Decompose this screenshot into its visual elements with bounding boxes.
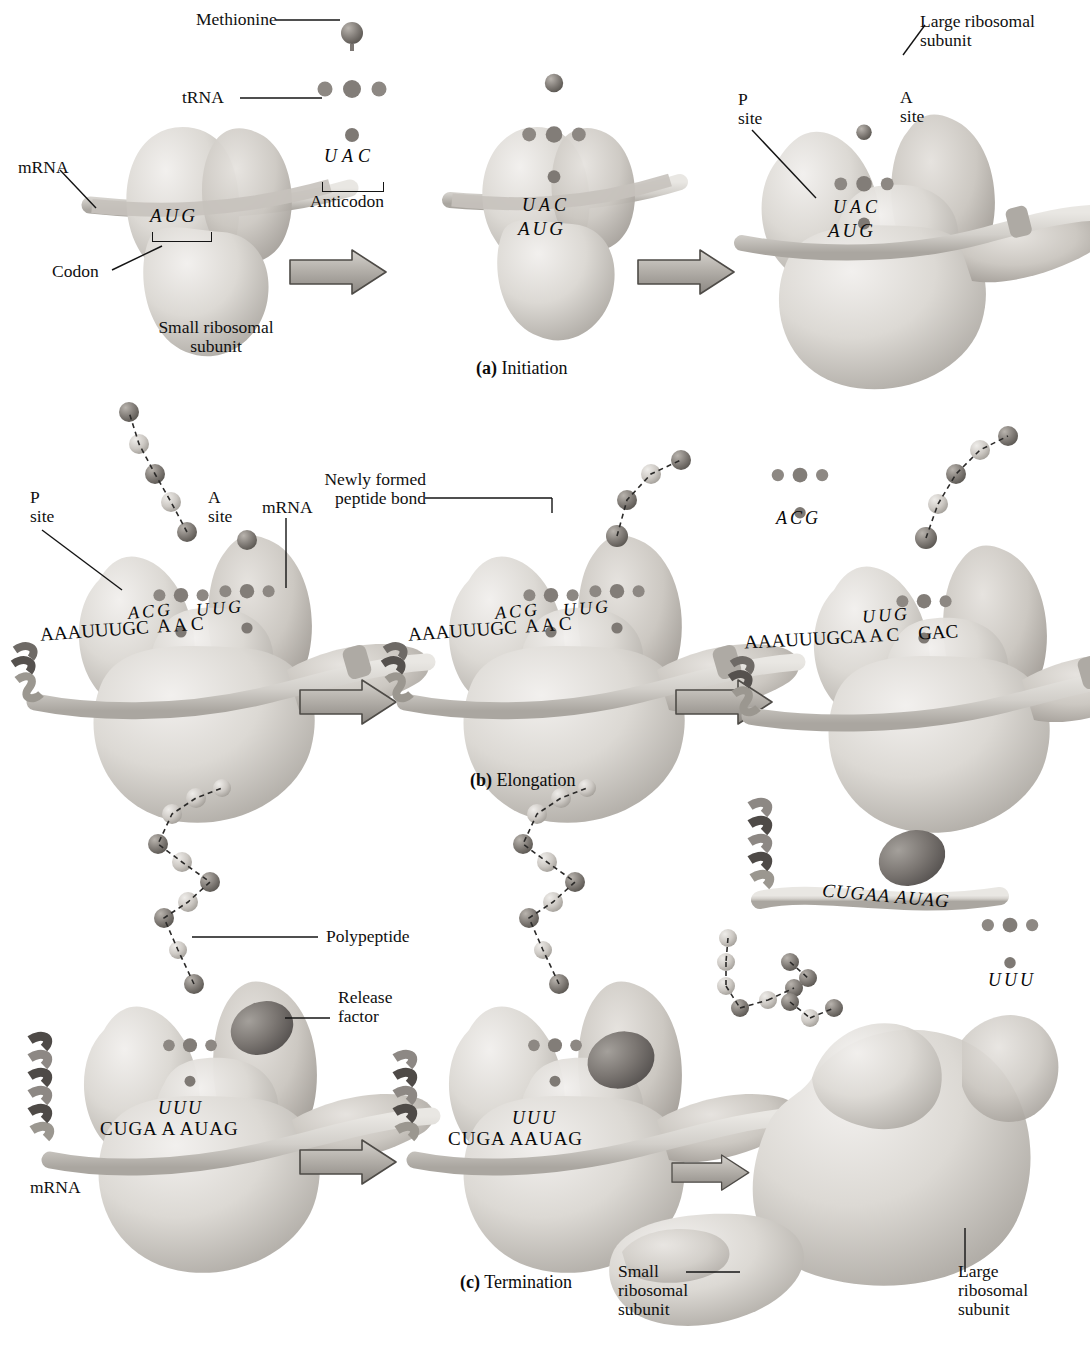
label-mrna-a: mRNA: [18, 158, 69, 177]
codon-step1-a: AUG: [150, 205, 198, 227]
label-newly-formed-peptide-bond: Newly formed peptide bond: [318, 470, 426, 508]
caption-text-a: Initiation: [502, 358, 568, 378]
codon-bracket: [152, 232, 212, 242]
label-trna: tRNA: [182, 88, 224, 107]
anticodon-free-trna-step3-c: UUU: [988, 970, 1036, 991]
caption-marker-c: (c): [460, 1272, 480, 1292]
anticodon-step2-a: UAC: [522, 195, 570, 216]
label-large-ribosomal-subunit-a: Large ribosomal subunit: [920, 12, 1035, 50]
label-polypeptide: Polypeptide: [326, 927, 410, 946]
codon-step2-a: AUG: [518, 218, 566, 240]
anticodon-step3-a: UAC: [833, 197, 881, 218]
caption-marker-b: (b): [470, 770, 492, 790]
anticodon-released-trna-step3-b: ACG: [776, 508, 821, 529]
label-methionine: Methionine: [196, 10, 277, 29]
label-a-site-b: A site: [208, 488, 232, 526]
caption-marker-a: (a): [476, 358, 497, 378]
label-p-site-a: P site: [738, 90, 762, 128]
codon-step3-a: AUG: [828, 220, 876, 242]
caption-text-b: Elongation: [497, 770, 576, 790]
anticodon-step1-c: UUU: [158, 1098, 203, 1119]
mrna-sequence-step1-c: CUGA A AUAG: [100, 1118, 239, 1140]
label-large-ribosomal-subunit-c: Large ribosomal subunit: [958, 1262, 1028, 1319]
label-mrna-c: mRNA: [30, 1178, 81, 1197]
label-codon: Codon: [52, 262, 99, 281]
label-mrna-b: mRNA: [262, 498, 313, 517]
label-small-ribosomal-subunit-c: Small ribosomal subunit: [618, 1262, 688, 1319]
label-p-site-b: P site: [30, 488, 54, 526]
label-a-site-a: A site: [900, 88, 924, 126]
caption-text-c: Termination: [484, 1272, 572, 1292]
caption-panel-a: (a) Initiation: [476, 358, 568, 379]
caption-panel-c: (c) Termination: [460, 1272, 572, 1293]
label-small-ribosomal-subunit-a: Small ribosomal subunit: [136, 318, 296, 356]
caption-panel-b: (b) Elongation: [470, 770, 576, 791]
anticodon-step2-c: UUU: [512, 1108, 557, 1129]
label-release-factor: Release factor: [338, 988, 392, 1026]
label-anticodon: Anticodon: [310, 192, 384, 211]
mrna-sequence-step2-c: CUGA AAUAG: [448, 1128, 583, 1150]
anticodon-free-trna-a: UAC: [324, 146, 375, 167]
